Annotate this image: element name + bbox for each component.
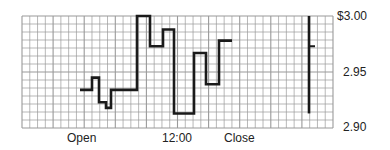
y-label-mid: 2.95 [343, 65, 366, 79]
high-low-close-bar [309, 16, 315, 113]
step-price-chart [0, 0, 390, 150]
x-label-open: Open [67, 131, 96, 145]
x-label-noon: 12:00 [162, 131, 192, 145]
y-label-bottom: 2.90 [343, 120, 366, 134]
y-label-top: $3.00 [337, 9, 367, 23]
x-label-close: Close [224, 131, 255, 145]
chart-grid [22, 16, 333, 128]
price-step-line [80, 16, 232, 113]
